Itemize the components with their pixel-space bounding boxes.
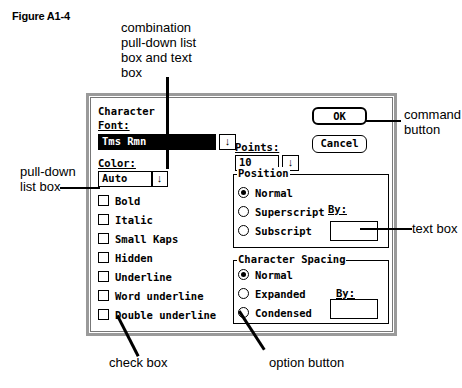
position-group: Position Normal Superscript Subscript By… [233, 174, 389, 248]
ok-button[interactable]: OK [312, 107, 367, 125]
checkbox-label: Hidden [115, 252, 153, 264]
checkbox-icon[interactable] [98, 233, 109, 244]
callout-text: combination [121, 20, 196, 35]
character-spacing-group: Character Spacing Normal Expanded Conden… [233, 260, 389, 324]
style-checkbox-list: Bold Italic Small Kaps Hidden Underline … [98, 191, 216, 324]
spacing-normal-radio[interactable]: Normal [238, 265, 312, 284]
position-subscript-radio[interactable]: Subscript [238, 221, 325, 240]
position-by-label: By: [328, 203, 347, 215]
checkbox-icon[interactable] [98, 252, 109, 263]
checkbox-label: Underline [115, 271, 172, 283]
font-combo-input[interactable]: Tms Rmn [98, 134, 216, 150]
font-label: Font: [98, 119, 130, 131]
checkbox-label: Small Kaps [115, 233, 178, 245]
radio-label: Normal [255, 269, 293, 281]
dialog-title: Character [98, 105, 155, 117]
radio-label: Expanded [255, 288, 306, 300]
cancel-button[interactable]: Cancel [312, 135, 367, 153]
callout-text: box [121, 65, 196, 80]
callout-line [360, 228, 412, 230]
callout-text-box: text box [412, 221, 458, 236]
radio-selected-icon[interactable] [238, 187, 249, 198]
radio-label: Normal [255, 187, 293, 199]
character-dialog: Character Font: Tms Rmn ↓ Points: 10 ↓ O… [86, 93, 397, 336]
callout-text: pull-down [20, 164, 76, 179]
font-dropdown-arrow-icon[interactable]: ↓ [219, 134, 236, 150]
callout-pulldown: pull-down list box [20, 164, 76, 194]
points-label: Points: [235, 141, 279, 153]
position-legend: Position [237, 167, 290, 179]
callout-command-button: command button [404, 107, 461, 137]
callout-check-box: check box [109, 355, 168, 370]
callout-line [166, 77, 169, 169]
checkbox-icon[interactable] [98, 214, 109, 225]
callout-text: list box [20, 179, 76, 194]
checkbox-label: Italic [115, 214, 153, 226]
figure-title: Figure A1-4 [12, 10, 70, 22]
spacing-expanded-radio[interactable]: Expanded [238, 284, 312, 303]
radio-icon[interactable] [238, 288, 249, 299]
callout-option-button: option button [269, 355, 344, 370]
callout-text: button [404, 122, 461, 137]
callout-combo: combination pull-down list box and text … [121, 20, 196, 80]
color-dropdown[interactable]: Auto [98, 171, 153, 187]
checkbox-word-underline[interactable]: Word underline [98, 286, 216, 305]
checkbox-bold[interactable]: Bold [98, 191, 216, 210]
checkbox-icon[interactable] [98, 309, 109, 320]
spacing-by-label: By: [336, 287, 355, 299]
checkbox-double-underline[interactable]: Double underline [98, 305, 216, 324]
color-label: Color: [98, 157, 136, 169]
radio-icon[interactable] [238, 206, 249, 217]
checkbox-hidden[interactable]: Hidden [98, 248, 216, 267]
checkbox-icon[interactable] [98, 290, 109, 301]
radio-label: Subscript [255, 225, 312, 237]
radio-label: Condensed [255, 307, 312, 319]
checkbox-label: Bold [115, 195, 140, 207]
callout-text: command [404, 107, 461, 122]
checkbox-small-kaps[interactable]: Small Kaps [98, 229, 216, 248]
spacing-condensed-radio[interactable]: Condensed [238, 303, 312, 322]
callout-text: box and text [121, 50, 196, 65]
radio-icon[interactable] [238, 225, 249, 236]
checkbox-underline[interactable]: Underline [98, 267, 216, 286]
callout-line [365, 120, 401, 122]
radio-selected-icon[interactable] [238, 269, 249, 280]
position-superscript-radio[interactable]: Superscript [238, 202, 325, 221]
color-dropdown-arrow-icon[interactable]: ↓ [151, 171, 168, 187]
checkbox-label: Double underline [115, 309, 216, 321]
radio-label: Superscript [255, 206, 325, 218]
spacing-by-text-box[interactable] [330, 299, 378, 319]
callout-text: pull-down list [121, 35, 196, 50]
checkbox-icon[interactable] [98, 195, 109, 206]
checkbox-icon[interactable] [98, 271, 109, 282]
position-normal-radio[interactable]: Normal [238, 183, 325, 202]
checkbox-italic[interactable]: Italic [98, 210, 216, 229]
spacing-legend: Character Spacing [237, 253, 346, 265]
checkbox-label: Word underline [115, 290, 204, 302]
position-by-text-box[interactable] [330, 221, 378, 241]
